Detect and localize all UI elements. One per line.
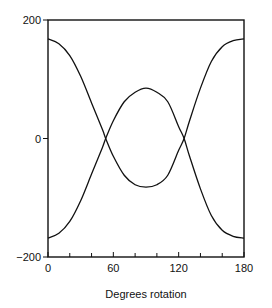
- x-tick-label: 180: [235, 262, 253, 274]
- x-tick-label: 0: [45, 262, 51, 274]
- x-tick-label: 60: [107, 262, 119, 274]
- y-tick-label: −200: [16, 251, 41, 263]
- x-tick-label: 120: [169, 262, 187, 274]
- series-line-curve-b: [48, 88, 244, 238]
- series-line-curve-a: [48, 39, 244, 187]
- x-axis-label: Degrees rotation: [105, 288, 186, 300]
- chart: 0601201802000−200 Degrees rotation: [0, 0, 272, 308]
- y-tick-label: 200: [23, 14, 41, 26]
- y-tick-label: 0: [35, 133, 41, 145]
